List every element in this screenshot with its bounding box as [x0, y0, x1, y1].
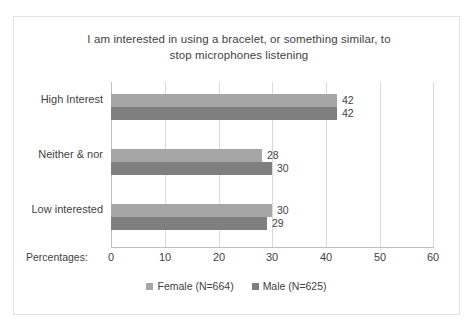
value-label-male-high-interest: 42	[342, 107, 354, 120]
legend-item-female[interactable]: Female (N=664)	[146, 280, 233, 292]
chart-title: I am interested in using a bracelet, or …	[54, 31, 424, 63]
category-label-low-interested: Low interested	[13, 203, 103, 215]
x-tick-40: 40	[320, 251, 332, 263]
chart-title-line-1: I am interested in using a bracelet, or …	[54, 31, 424, 47]
legend-swatch-male-icon	[252, 283, 259, 290]
category-axis: High Interest Neither & nor Low interest…	[14, 82, 103, 248]
x-tick-30: 30	[266, 251, 278, 263]
plot-area: 42 42 28 30 30 29	[111, 82, 434, 248]
legend-item-male[interactable]: Male (N=625)	[252, 280, 327, 292]
legend-label-male: Male (N=625)	[263, 280, 327, 292]
chart-legend: Female (N=664) Male (N=625)	[14, 280, 459, 292]
x-axis-title: Percentages:	[26, 251, 88, 263]
category-label-high-interest: High Interest	[13, 93, 103, 105]
x-tick-20: 20	[213, 251, 225, 263]
x-axis-line	[111, 247, 434, 248]
category-label-neither-nor: Neither & nor	[13, 148, 103, 160]
value-label-female-neither-nor: 28	[267, 149, 279, 162]
legend-label-female: Female (N=664)	[157, 280, 233, 292]
bar-male-neither-nor[interactable]	[111, 162, 272, 175]
bar-male-low-interested[interactable]	[111, 217, 267, 230]
x-tick-60: 60	[427, 251, 439, 263]
value-label-female-high-interest: 42	[342, 94, 354, 107]
value-label-male-neither-nor: 30	[277, 162, 289, 175]
chart-title-line-2: stop microphones listening	[54, 47, 424, 63]
legend-swatch-female-icon	[146, 283, 153, 290]
x-tick-0: 0	[108, 251, 114, 263]
x-tick-50: 50	[374, 251, 386, 263]
value-label-male-low-interested: 29	[272, 217, 284, 230]
x-axis-tick-labels: 0 10 20 30 40 50 60	[111, 251, 434, 267]
bar-group-low-interested: 30 29	[111, 204, 434, 230]
x-tick-10: 10	[159, 251, 171, 263]
bar-group-neither-nor: 28 30	[111, 149, 434, 175]
value-label-female-low-interested: 30	[277, 204, 289, 217]
bar-female-high-interest[interactable]	[111, 94, 337, 107]
chart-frame: I am interested in using a bracelet, or …	[13, 16, 460, 315]
bar-male-high-interest[interactable]	[111, 107, 337, 120]
bar-female-low-interested[interactable]	[111, 204, 272, 217]
bar-female-neither-nor[interactable]	[111, 149, 262, 162]
bar-group-high-interest: 42 42	[111, 94, 434, 120]
